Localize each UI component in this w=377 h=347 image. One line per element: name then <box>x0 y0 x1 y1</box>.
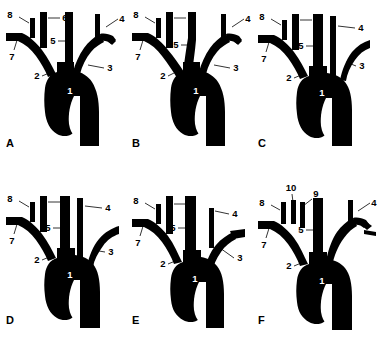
panel-a-diagram: 8 6 7 5 4 3 2 1 <box>0 0 125 173</box>
label-4: 4 <box>358 22 364 33</box>
panel-letter-b: B <box>132 138 140 149</box>
leader-8 <box>19 17 29 23</box>
panel-d: 8 6 7 5 4 3 2 1 D <box>0 174 125 347</box>
panel-a: 8 6 7 5 4 3 2 1 A <box>0 0 125 173</box>
left-common-carotid-artery <box>313 198 323 266</box>
leader-4 <box>338 26 355 28</box>
label-5: 5 <box>170 222 176 233</box>
label-7: 7 <box>135 51 140 62</box>
descending-aorta <box>206 112 225 146</box>
label-4: 4 <box>245 13 251 24</box>
label-3: 3 <box>359 60 364 71</box>
right-subclavian-artery <box>132 33 148 41</box>
leader-4 <box>85 206 102 208</box>
right-common-carotid-artery <box>40 12 47 48</box>
leader-4 <box>358 203 370 211</box>
label-5: 5 <box>173 39 179 50</box>
left-vertebral-artery <box>209 208 214 248</box>
right-vertebral-artery <box>282 20 287 40</box>
panel-e: 8 6 7 5 4 3 2 1 E <box>126 174 251 347</box>
label-8: 8 <box>133 195 138 206</box>
label-7: 7 <box>261 239 266 250</box>
figure-root: 8 6 7 5 4 3 2 1 A <box>0 0 377 347</box>
label-4: 4 <box>119 13 125 24</box>
label-7: 7 <box>135 237 140 248</box>
label-1: 1 <box>67 269 73 280</box>
label-8: 8 <box>7 193 12 204</box>
right-subclavian-artery <box>6 217 22 225</box>
descending-aorta <box>332 298 352 330</box>
leader-8 <box>271 205 280 210</box>
leader-8 <box>271 19 281 25</box>
descending-aorta <box>80 294 100 328</box>
label-5: 5 <box>298 40 304 51</box>
right-vertebral-artery <box>281 202 286 224</box>
left-vertebral-artery <box>77 198 83 264</box>
left-vertebral-branch <box>221 14 226 40</box>
label-4: 4 <box>232 208 238 219</box>
label-8: 8 <box>133 9 138 20</box>
panel-letter-c: C <box>258 138 266 149</box>
left-vertebral-artery <box>330 16 336 80</box>
right-subclavian-artery <box>258 221 274 229</box>
label-7: 7 <box>261 53 266 64</box>
label-1: 1 <box>319 275 325 286</box>
descending-aorta <box>206 296 224 328</box>
panel-letter-f: F <box>258 315 265 326</box>
panel-c-diagram: 8 6 7 5 4 3 2 1 <box>252 0 377 173</box>
label-6: 6 <box>62 196 67 207</box>
label-3: 3 <box>107 62 112 73</box>
label-4: 4 <box>105 202 111 213</box>
right-vertebral-artery <box>30 18 35 38</box>
right-vertebral-artery <box>30 202 35 222</box>
leader-8 <box>145 203 155 209</box>
label-5: 5 <box>45 222 51 233</box>
left-distal-stub <box>364 230 376 236</box>
label-3: 3 <box>237 252 242 263</box>
label-2: 2 <box>34 254 39 265</box>
left-subclavian-artery <box>87 226 119 267</box>
label-3: 3 <box>108 246 113 257</box>
leader-4 <box>106 19 118 27</box>
label-2: 2 <box>160 258 165 269</box>
label-6: 6 <box>188 198 193 209</box>
panel-f: 8 10 9 7 5 4 2 1 F <box>252 174 377 347</box>
right-subclavian-artery <box>132 219 148 227</box>
left-subclavian-artery <box>340 40 370 81</box>
label-6: 6 <box>62 12 67 23</box>
label-1: 1 <box>319 87 325 98</box>
right-subclavian-artery <box>6 33 22 41</box>
label-1: 1 <box>193 85 199 96</box>
left-subclavian-artery <box>326 218 357 266</box>
leader-3 <box>214 65 230 68</box>
label-7: 7 <box>9 235 14 246</box>
right-common-carotid-artery <box>166 12 173 48</box>
label-9: 9 <box>313 188 318 199</box>
leader-3 <box>220 248 234 258</box>
label-1: 1 <box>67 85 73 96</box>
left-vertebral-branch <box>95 14 100 40</box>
label-8: 8 <box>7 9 12 20</box>
label-2: 2 <box>286 72 291 83</box>
descending-aorta <box>332 112 352 146</box>
panel-letter-d: D <box>6 315 14 326</box>
panel-b: 8 6 7 5 4 3 2 1 B <box>126 0 251 173</box>
panel-e-diagram: 8 6 7 5 4 3 2 1 <box>126 174 251 347</box>
label-5: 5 <box>298 224 304 235</box>
leader-4 <box>232 19 244 27</box>
panel-f-diagram: 8 10 9 7 5 4 2 1 <box>252 174 377 347</box>
label-10: 10 <box>286 182 297 193</box>
label-2: 2 <box>34 70 39 81</box>
label-8: 8 <box>259 197 264 208</box>
accessory-branch-10 <box>291 200 296 224</box>
leader-4 <box>215 211 229 214</box>
left-vertebral-branch <box>348 200 353 224</box>
panel-d-diagram: 8 6 7 5 4 3 2 1 <box>0 174 125 347</box>
label-1: 1 <box>192 273 198 284</box>
leader-8 <box>145 17 155 23</box>
label-2: 2 <box>286 260 291 271</box>
label-8: 8 <box>259 11 264 22</box>
label-2: 2 <box>160 70 165 81</box>
panel-letter-e: E <box>132 315 139 326</box>
panel-letter-a: A <box>6 138 14 149</box>
